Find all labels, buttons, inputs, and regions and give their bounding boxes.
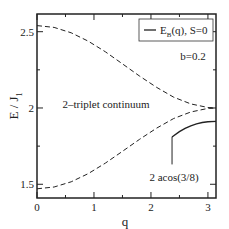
y-tick-label: 2 [29,102,35,114]
y-axis-label: E / J1 [6,92,24,119]
x-tick-label: 3 [205,201,211,213]
x-tick-label: 1 [91,201,97,213]
y-tick-label: 2.5 [20,26,34,38]
annotation-continuum: 2–triplet continuum [62,98,150,110]
legend: EB(q), S=0 [139,19,213,41]
y-axis-label-sub: 1 [15,92,24,96]
annotation-b: b=0.2 [180,50,205,62]
y-tick-label: 1.5 [20,178,34,190]
x-tick-label: 0 [34,201,40,213]
x-tick-label: 2 [148,201,154,213]
x-axis-label: q [122,214,129,229]
annotation-acos: 2 acos(3/8) [149,171,199,184]
series-e-b-q-s-0 [172,121,216,137]
chart: 01231.522.5 E / J1 q EB(q), S=0 b=0.2 2–… [0,0,229,229]
